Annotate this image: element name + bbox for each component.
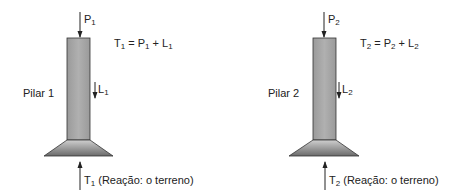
load-label-p1: P1 (84, 14, 96, 27)
weight-label-l1: L1 (98, 84, 109, 97)
pillar-label-1: Pilar 1 (23, 88, 54, 99)
column-2 (313, 38, 336, 140)
diagram-canvas (0, 0, 457, 195)
equation-2: T2 = P2 + L2 (360, 38, 419, 51)
load-label-p2: P2 (328, 14, 340, 27)
pillar-2 (289, 12, 359, 190)
weight-label-l2: L2 (342, 84, 353, 97)
column-1 (67, 38, 90, 140)
reaction-note-1: (Reação: o terreno) (98, 174, 193, 186)
pillar-label-2: Pilar 2 (268, 88, 299, 99)
reaction-label-t1: T1 (Reação: o terreno) (84, 175, 194, 188)
reaction-note-2: (Reação: o terreno) (343, 174, 438, 186)
equation-1: T1 = P1 + L1 (114, 38, 173, 51)
pillar-1 (44, 12, 113, 190)
reaction-label-t2: T2 (Reação: o terreno) (329, 175, 439, 188)
footing-2 (289, 140, 359, 156)
footing-1 (44, 140, 113, 156)
